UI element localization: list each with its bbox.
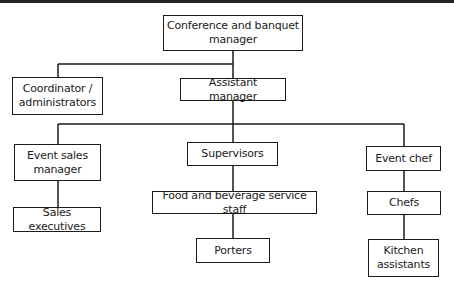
node-chefs: Chefs <box>367 191 441 215</box>
node-label: Porters <box>214 244 251 258</box>
node-label: Food and beverage service staff <box>156 189 313 217</box>
node-label: Kitchen assistants <box>372 244 435 272</box>
node-fb-service-staff: Food and beverage service staff <box>152 191 317 214</box>
node-supervisors: Supervisors <box>187 142 278 166</box>
node-porters: Porters <box>196 238 270 263</box>
node-label: Coordinator / administrators <box>16 82 99 110</box>
node-event-sales-manager: Event sales manager <box>14 144 101 181</box>
node-label: Event sales manager <box>18 149 97 177</box>
node-coordinator-administrators: Coordinator / administrators <box>12 77 103 115</box>
node-label: Assistant manager <box>184 76 282 104</box>
node-label: Conference and banquet manager <box>167 19 299 47</box>
node-label: Chefs <box>389 196 419 210</box>
node-label: Sales executives <box>17 206 97 234</box>
node-conference-banquet-manager: Conference and banquet manager <box>163 15 303 51</box>
node-event-chef: Event chef <box>366 146 441 171</box>
node-sales-executives: Sales executives <box>13 207 101 232</box>
node-kitchen-assistants: Kitchen assistants <box>368 239 439 277</box>
node-label: Supervisors <box>201 147 263 161</box>
node-label: Event chef <box>375 152 432 166</box>
node-assistant-manager: Assistant manager <box>180 78 286 101</box>
